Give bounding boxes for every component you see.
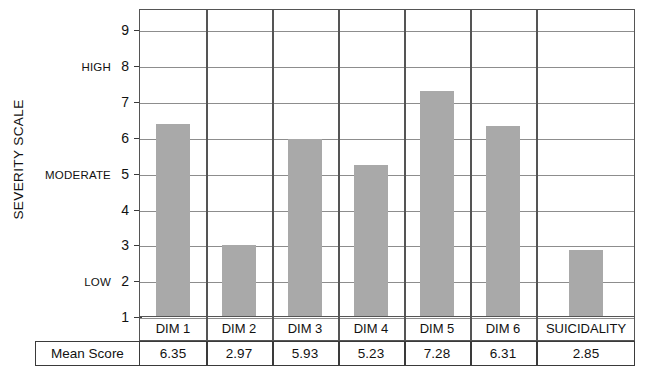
- category-label-cell: DIM 5: [404, 317, 470, 340]
- mean-score-value: 7.28: [424, 346, 450, 361]
- mean-score-value: 5.93: [292, 346, 318, 361]
- mean-score-cell: 2.85: [536, 342, 636, 365]
- cell-separator: [338, 342, 340, 365]
- severity-band-label: LOW: [84, 274, 111, 290]
- cell-separator: [404, 342, 406, 365]
- category-label-cell: DIM 3: [272, 317, 338, 340]
- y-axis-tick-label: 9: [0, 22, 129, 38]
- y-axis-tick-value: 3: [115, 237, 129, 253]
- cell-separator: [206, 317, 208, 340]
- category-label-cell: SUICIDALITY: [536, 317, 636, 340]
- column-separator: [272, 10, 274, 316]
- bar: [156, 124, 190, 316]
- chart-plot-area: [139, 9, 635, 317]
- y-axis-tick-value: 2: [115, 273, 129, 289]
- y-axis-tick-label: 7: [0, 94, 129, 110]
- column-separator: [404, 10, 406, 316]
- category-label-text: DIM 4: [354, 321, 389, 336]
- y-axis-tick-value: 5: [115, 166, 129, 182]
- mean-score-value: 2.97: [226, 346, 252, 361]
- severity-band-label: HIGH: [81, 59, 111, 75]
- category-label-text: DIM 2: [222, 321, 257, 336]
- cell-separator: [536, 317, 538, 340]
- gridline: [140, 67, 634, 68]
- y-axis-tick-value: 9: [115, 22, 129, 38]
- cell-separator: [470, 317, 472, 340]
- bar: [288, 139, 322, 316]
- gridline: [140, 31, 634, 32]
- y-axis-tick-value: 4: [115, 202, 129, 218]
- cell-separator: [338, 317, 340, 340]
- mean-score-cell: 5.93: [272, 342, 338, 365]
- cell-separator: [470, 342, 472, 365]
- mean-score-value: 6.35: [160, 346, 186, 361]
- mean-score-cell: 6.35: [140, 342, 206, 365]
- y-axis-tick-label: 2LOW: [0, 273, 129, 289]
- category-label-cell: DIM 6: [470, 317, 536, 340]
- mean-score-cell: 2.97: [206, 342, 272, 365]
- y-axis-tick-label: 1: [0, 309, 129, 325]
- category-label-text: DIM 5: [420, 321, 455, 336]
- cell-separator: [272, 317, 274, 340]
- category-label-text: DIM 1: [156, 321, 191, 336]
- mean-score-value: 6.31: [490, 346, 516, 361]
- category-label-row: DIM 1DIM 2DIM 3DIM 4DIM 5DIM 6SUICIDALIT…: [139, 317, 635, 341]
- bar: [222, 245, 256, 316]
- mean-score-row-label: Mean Score: [36, 342, 140, 365]
- mean-score-cell: 5.23: [338, 342, 404, 365]
- cell-separator: [404, 317, 406, 340]
- y-axis-tick-value: 7: [115, 94, 129, 110]
- y-axis-tick-label: 5MODERATE: [0, 166, 129, 182]
- y-axis-tick-label: 8HIGH: [0, 58, 129, 74]
- y-axis-tick-label: 6: [0, 130, 129, 146]
- column-separator: [338, 10, 340, 316]
- mean-score-table: Mean Score 6.352.975.935.237.286.312.85: [35, 341, 635, 366]
- severity-band-label: MODERATE: [45, 167, 111, 183]
- bar: [354, 165, 388, 316]
- cell-separator: [536, 342, 538, 365]
- y-axis-tick-value: 8: [115, 58, 129, 74]
- mean-score-cell: 7.28: [404, 342, 470, 365]
- category-label-text: DIM 3: [288, 321, 323, 336]
- category-label-text: SUICIDALITY: [546, 321, 626, 336]
- category-label-cell: DIM 4: [338, 317, 404, 340]
- y-axis-title: SEVERITY SCALE: [0, 0, 36, 318]
- cell-separator: [206, 342, 208, 365]
- y-axis-tick-label: 4: [0, 202, 129, 218]
- gridline: [140, 103, 634, 104]
- y-axis-tick-value: 1: [115, 309, 129, 325]
- category-label-cell: DIM 2: [206, 317, 272, 340]
- column-separator: [470, 10, 472, 316]
- category-label-text: DIM 6: [486, 321, 521, 336]
- mean-score-value: 2.85: [573, 346, 599, 361]
- column-separator: [206, 10, 208, 316]
- bar: [486, 126, 520, 316]
- mean-score-cell: 6.31: [470, 342, 536, 365]
- cell-separator: [272, 342, 274, 365]
- column-separator: [536, 10, 538, 316]
- y-axis-tick-value: 6: [115, 130, 129, 146]
- category-label-cell: DIM 1: [140, 317, 206, 340]
- y-axis-tick-label: 3: [0, 237, 129, 253]
- bar: [420, 91, 454, 316]
- mean-score-value: 5.23: [358, 346, 384, 361]
- bar: [569, 250, 603, 316]
- gridline: [140, 139, 634, 140]
